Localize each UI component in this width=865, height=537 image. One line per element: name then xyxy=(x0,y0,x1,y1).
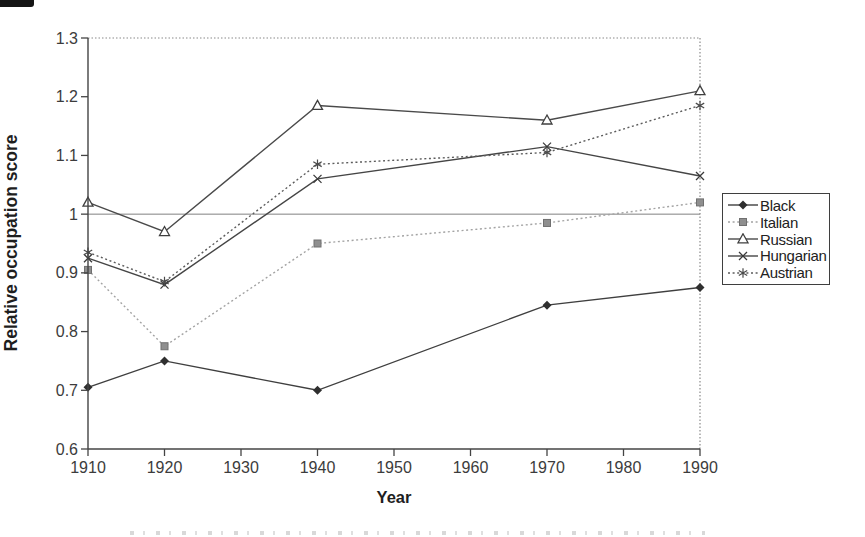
legend: BlackItalianRussianHungarianAustrian xyxy=(722,193,830,285)
diamond-marker xyxy=(313,386,322,395)
legend-item-russian: Russian xyxy=(728,231,828,248)
x-tick-label: 1910 xyxy=(70,459,106,476)
legend-label: Austrian xyxy=(760,264,813,281)
legend-swatch-square xyxy=(728,216,758,228)
diamond-marker xyxy=(696,283,705,292)
asterisk-marker xyxy=(739,268,747,278)
legend-swatch-triangle-open xyxy=(728,233,758,245)
x-axis-title: Year xyxy=(377,488,412,506)
x-tick-label: 1950 xyxy=(376,459,412,476)
y-axis-title: Relative occupation score xyxy=(1,134,21,351)
diamond-marker xyxy=(739,201,748,210)
series-line-hungarian xyxy=(88,147,700,285)
y-tick-label: 1 xyxy=(69,206,78,223)
x-tick-label: 1960 xyxy=(453,459,489,476)
x-tick-label: 1970 xyxy=(529,459,565,476)
y-tick-label: 0.7 xyxy=(56,382,78,399)
legend-item-austrian: Austrian xyxy=(728,264,828,281)
legend-label: Black xyxy=(760,197,795,214)
legend-swatch-diamond xyxy=(728,199,758,211)
legend-label: Italian xyxy=(760,214,798,231)
x-tick-label: 1940 xyxy=(300,459,336,476)
x-tick-label: 1930 xyxy=(223,459,259,476)
diamond-marker xyxy=(160,356,169,365)
legend-swatch-x xyxy=(728,250,758,262)
diamond-marker xyxy=(543,301,552,310)
cut-off-caption-fragment xyxy=(130,531,705,535)
legend-item-italian: Italian xyxy=(728,214,828,231)
series-line-russian xyxy=(88,91,700,232)
series-line-austrian xyxy=(88,106,700,282)
legend-label: Russian xyxy=(760,231,812,248)
x-tick-label: 1920 xyxy=(147,459,183,476)
scanned-chart-figure: Relative occupation score Year 0.60.70.8… xyxy=(0,0,865,537)
x-tick-label: 1990 xyxy=(682,459,718,476)
asterisk-marker xyxy=(696,101,704,111)
x-tick-label: 1980 xyxy=(606,459,642,476)
scan-artifact xyxy=(0,0,34,7)
legend-item-black: Black xyxy=(728,197,828,214)
square-marker xyxy=(740,219,747,226)
square-marker xyxy=(544,219,551,226)
y-tick-label: 1.1 xyxy=(56,147,78,164)
series-line-black xyxy=(88,288,700,391)
legend-swatch-asterisk xyxy=(728,267,758,279)
y-tick-label: 0.9 xyxy=(56,264,78,281)
y-tick-label: 0.8 xyxy=(56,323,78,340)
y-tick-label: 1.2 xyxy=(56,88,78,105)
square-marker xyxy=(314,240,321,247)
y-tick-label: 1.3 xyxy=(56,30,78,47)
square-marker xyxy=(161,343,168,350)
triangle-open-marker xyxy=(695,86,705,95)
y-tick-label: 0.6 xyxy=(56,441,78,458)
square-marker xyxy=(697,199,704,206)
triangle-open-marker xyxy=(313,100,323,109)
legend-label: Hungarian xyxy=(760,247,827,264)
legend-item-hungarian: Hungarian xyxy=(728,247,828,264)
